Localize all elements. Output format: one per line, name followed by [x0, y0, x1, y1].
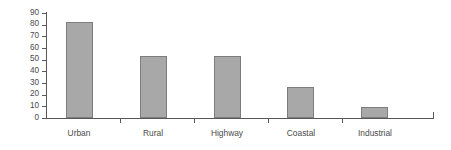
plot-area: Percent successful 9080706050403020100 U… [0, 0, 451, 150]
bar-rural [140, 56, 167, 118]
x-axis-label-rural: Rural [116, 128, 190, 138]
x-axis-end-tick [433, 112, 434, 119]
y-axis-tick [42, 106, 46, 107]
y-axis-tick [42, 13, 46, 14]
y-axis-tick-label: 30 [15, 79, 39, 87]
y-axis-tick-label: 50 [15, 55, 39, 63]
y-axis-tick [42, 83, 46, 84]
y-axis-tick-label: 90 [15, 9, 39, 17]
x-axis-tick [120, 119, 121, 123]
y-axis-tick [42, 48, 46, 49]
y-axis-tick [42, 71, 46, 72]
y-axis-tick [42, 95, 46, 96]
x-axis-tick [342, 119, 343, 123]
x-axis-label-coastal: Coastal [264, 128, 338, 138]
y-axis-tick-label: 70 [15, 32, 39, 40]
x-axis-label-urban: Urban [42, 128, 116, 138]
y-axis-tick [42, 60, 46, 61]
x-axis-line [46, 118, 434, 119]
bar-urban [66, 22, 93, 118]
y-axis-tick [42, 36, 46, 37]
y-axis-tick-label: 20 [15, 90, 39, 98]
y-axis-tick-label: 0 [15, 114, 39, 122]
y-axis-tick [42, 25, 46, 26]
bar-chart: Percent successful 9080706050403020100 U… [0, 0, 451, 150]
x-axis-label-highway: Highway [190, 128, 264, 138]
bar-coastal [287, 87, 314, 119]
x-axis-tick [194, 119, 195, 123]
y-axis-tick-label: 60 [15, 44, 39, 52]
y-axis-tick-label: 80 [15, 20, 39, 28]
y-axis-tick-label: 10 [15, 102, 39, 110]
x-axis-tick [268, 119, 269, 123]
y-axis-tick [42, 118, 46, 119]
x-axis-label-industrial: Industrial [338, 128, 412, 138]
y-axis-tick-label: 40 [15, 67, 39, 75]
bar-highway [214, 56, 241, 118]
bar-industrial [361, 107, 388, 118]
y-axis-line [46, 12, 47, 119]
